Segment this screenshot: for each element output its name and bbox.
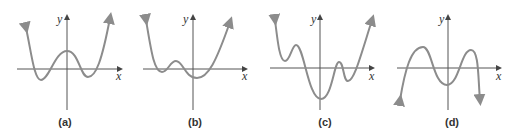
graph-panel-a: y x (a) [0, 0, 130, 138]
graph-panel-d: y x (d) [387, 0, 517, 138]
y-axis-label: y [182, 12, 189, 26]
curve-c [275, 20, 372, 99]
x-axis-label: x [241, 69, 248, 83]
curve-a [26, 18, 110, 80]
caption-a: (a) [0, 116, 130, 128]
graph-panel-c: y x (c) [260, 0, 390, 138]
caption-d: (d) [387, 116, 517, 128]
caption-b: (b) [130, 116, 260, 128]
y-axis-label: y [438, 12, 445, 26]
y-axis-label: y [56, 12, 63, 26]
x-axis-label: x [495, 69, 502, 83]
curve-d [400, 47, 480, 100]
caption-c: (c) [260, 116, 390, 128]
x-axis-label: x [115, 69, 122, 83]
polynomial-graphs-figure: y x (a) y x (b) [0, 0, 517, 138]
graph-panel-b: y x (b) [130, 0, 260, 138]
y-axis-label: y [310, 12, 317, 26]
x-axis-label: x [368, 69, 375, 83]
